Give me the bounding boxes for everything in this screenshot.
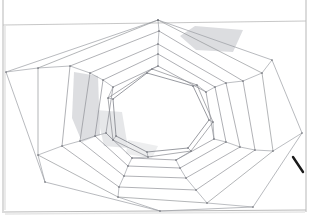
vertex-dot-r5-v3 xyxy=(175,159,177,161)
vertex-dot-r3-v6 xyxy=(89,72,91,74)
vertex-dot-r2-v4 xyxy=(118,186,120,188)
vertex-dot-r1-v0 xyxy=(157,19,159,21)
vertex-dot-r3-v5 xyxy=(79,140,81,142)
vertex-dot-r7-v4 xyxy=(146,151,148,153)
vertex-dot-r0-v2 xyxy=(301,132,303,134)
paper-sheet xyxy=(3,0,306,214)
vertex-dot-r7-v5 xyxy=(115,135,117,137)
vertex-dot-r3-v4 xyxy=(123,175,125,177)
vertex-dot-r7-v1 xyxy=(192,85,194,87)
vertex-dot-r2-v6 xyxy=(69,65,71,67)
vertex-dot-r6-v3 xyxy=(190,150,192,152)
vertex-dot-r4-v0 xyxy=(157,53,159,55)
vertex-dot-r2-v1 xyxy=(242,80,244,82)
vertex-dot-r4-v5 xyxy=(94,135,96,137)
vertex-dot-r3-v2 xyxy=(239,146,241,148)
vertex-dot-r4-v3 xyxy=(179,167,181,169)
vertex-dot-r3-v3 xyxy=(185,177,187,179)
vertex-dot-r0-v6 xyxy=(5,71,7,73)
vertex-dot-r2-v0 xyxy=(158,30,160,32)
vertex-dot-r2-v2 xyxy=(254,149,256,151)
vertex-dot-r0-v5 xyxy=(44,181,46,183)
vertex-dot-r1-v5 xyxy=(37,154,39,156)
vertex-dot-r6-v5 xyxy=(112,139,114,141)
vertex-dot-r1-v6 xyxy=(37,67,39,69)
vertex-dot-r6-v2 xyxy=(212,121,214,123)
vertex-dot-r7-v0 xyxy=(146,72,148,74)
vertex-dot-r6-v0 xyxy=(151,68,153,70)
vertex-dot-r3-v0 xyxy=(157,43,159,45)
vertex-dot-r6-v1 xyxy=(196,84,198,86)
vertex-dot-r0-v4 xyxy=(159,210,161,212)
paper-face xyxy=(3,22,306,212)
vertex-dot-r7-v6 xyxy=(112,98,114,100)
vertex-dot-r6-v4 xyxy=(147,156,149,158)
vertex-dot-r4-v4 xyxy=(127,165,129,167)
vertex-dot-r1-v3 xyxy=(206,202,208,204)
vertex-dot-r4-v1 xyxy=(214,86,216,88)
vertex-dot-r1-v1 xyxy=(261,72,263,74)
vertex-dot-r4-v6 xyxy=(102,79,104,81)
vertex-dot-r5-v1 xyxy=(205,91,207,93)
vertex-dot-r0-v1 xyxy=(271,59,273,61)
vertex-dot-r0-v3 xyxy=(252,206,254,208)
vertex-dot-r7-v2 xyxy=(208,119,210,121)
vertex-dot-r1-v2 xyxy=(272,150,274,152)
vertex-dot-r5-v5 xyxy=(105,132,107,134)
vertex-dot-r3-v1 xyxy=(225,82,227,84)
vertex-dot-r5-v0 xyxy=(157,65,159,67)
vertex-dot-r1-v4 xyxy=(117,196,119,198)
vertex-dot-r6-v6 xyxy=(107,97,109,99)
vertex-dot-r5-v6 xyxy=(112,86,114,88)
vertex-dot-r5-v2 xyxy=(213,138,215,140)
vertex-dot-r4-v2 xyxy=(225,141,227,143)
vertex-dot-r2-v5 xyxy=(61,145,63,147)
pencil-sketch-drawing xyxy=(0,0,321,220)
screenshot-canvas xyxy=(0,0,321,220)
vertex-dot-r5-v4 xyxy=(131,157,133,159)
vertex-dot-r2-v3 xyxy=(195,189,197,191)
vertex-dot-r7-v3 xyxy=(187,147,189,149)
